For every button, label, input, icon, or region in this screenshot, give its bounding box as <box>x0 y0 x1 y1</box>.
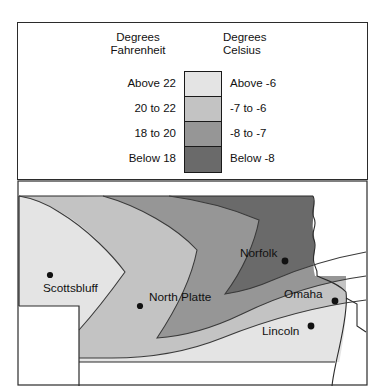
city-label-lincoln: Lincoln <box>262 324 299 338</box>
legend-celsius-row-0: Above -6 <box>230 71 360 96</box>
city-label-scottsbluff: Scottsbluff <box>43 281 99 295</box>
legend-fahrenheit-row-0: Above 22 <box>58 71 176 96</box>
city-label-norfolk: Norfolk <box>240 246 277 260</box>
legend-swatch-1 <box>185 97 221 122</box>
city-dot-norfolk <box>282 258 289 265</box>
legend-swatch-column <box>184 71 222 173</box>
city-dot-scottsbluff <box>47 272 53 278</box>
legend-fahrenheit-row-2: 18 to 20 <box>58 121 176 146</box>
legend-swatch-2 <box>185 122 221 147</box>
legend-fahrenheit-row-1: 20 to 22 <box>58 96 176 121</box>
nebraska-map: Scottsbluff North Platte Norfolk Omaha L… <box>17 180 368 386</box>
city-dot-omaha <box>332 298 339 305</box>
city-dot-north-platte <box>137 303 143 309</box>
city-label-north-platte: North Platte <box>149 290 212 304</box>
legend-celsius-row-1: -7 to -6 <box>230 96 360 121</box>
legend-celsius-row-2: -8 to -7 <box>230 121 360 146</box>
legend-panel: Degrees Fahrenheit Degrees Celsius Above… <box>17 22 368 180</box>
legend-header-fahrenheit: Degrees Fahrenheit <box>76 31 200 56</box>
city-dot-lincoln <box>308 323 315 330</box>
temperature-zone-map-figure: Degrees Fahrenheit Degrees Celsius Above… <box>0 0 385 390</box>
city-label-omaha: Omaha <box>284 287 323 301</box>
legend-fahrenheit-row-3: Below 18 <box>58 146 176 171</box>
legend-celsius-row-3: Below -8 <box>230 146 360 171</box>
legend-swatch-3 <box>185 147 221 172</box>
legend-header-celsius: Degrees Celsius <box>223 31 353 56</box>
legend-swatch-0 <box>185 72 221 97</box>
